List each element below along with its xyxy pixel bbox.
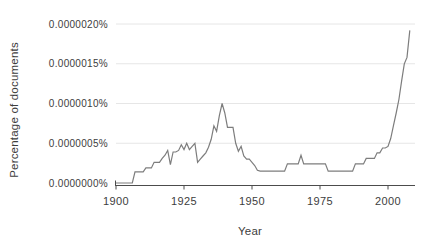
chart-canvas bbox=[0, 0, 427, 251]
y-tick-label: 0.0000015% bbox=[30, 58, 108, 70]
y-tick-label: 0.0000000% bbox=[30, 178, 108, 190]
x-tick-label: 1950 bbox=[230, 195, 274, 208]
y-tick-label: 0.0000010% bbox=[30, 98, 108, 110]
y-tick-label: 0.0000005% bbox=[30, 138, 108, 150]
x-tick-label: 1900 bbox=[94, 195, 138, 208]
x-tick-label: 1925 bbox=[162, 195, 206, 208]
y-axis-title: Percentage of documents bbox=[8, 42, 20, 178]
ngram-chart-figure: Percentage of documents Year 0.0000020%0… bbox=[0, 0, 427, 251]
data-line bbox=[116, 30, 410, 183]
x-tick-label: 2000 bbox=[366, 195, 410, 208]
y-tick-label: 0.0000020% bbox=[30, 19, 108, 31]
x-tick-label: 1975 bbox=[298, 195, 342, 208]
x-axis-title: Year bbox=[238, 225, 262, 237]
